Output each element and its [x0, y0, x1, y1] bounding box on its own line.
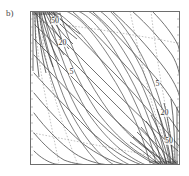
contour-label-50-lower: 50 [165, 137, 174, 145]
contour-label-50-upper: 50 [51, 17, 60, 25]
contour-label-20-lower: 20 [160, 109, 169, 117]
contour-plot: 50 20 5 5 20 50 [30, 11, 180, 165]
contour-plot-svg [30, 11, 180, 165]
panel-label: b) [6, 9, 14, 18]
figure-panel-b: b) [0, 0, 189, 176]
contour-label-5-upper: 5 [69, 68, 74, 76]
contour-label-5-lower: 5 [155, 80, 160, 88]
contour-label-20-upper: 20 [58, 39, 67, 47]
